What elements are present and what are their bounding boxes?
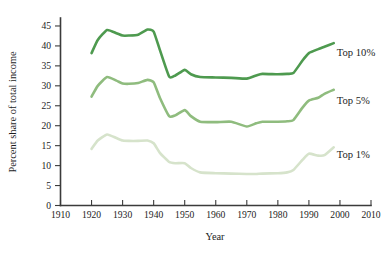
x-axis-title: Year [205, 231, 225, 242]
y-tick-label: 25 [41, 100, 51, 111]
x-tick-label: 1920 [82, 209, 101, 220]
series-label-top-5: Top 5% [337, 95, 370, 106]
y-tick-label: 40 [41, 40, 51, 51]
y-tick-marks: 051015202530354045 [41, 20, 60, 211]
series-lines [92, 30, 334, 175]
y-tick-label: 30 [41, 80, 51, 91]
series-line-top-5 [92, 77, 334, 127]
x-tick-label: 1990 [299, 209, 318, 220]
x-tick-label: 1970 [237, 209, 256, 220]
y-axis-title: Percent share of total income [7, 51, 18, 173]
x-tick-label: 1980 [268, 209, 287, 220]
y-tick-label: 15 [41, 140, 51, 151]
series-line-top-10 [92, 30, 334, 79]
x-tick-label: 1930 [113, 209, 132, 220]
y-tick-label: 10 [41, 160, 51, 171]
series-label-top-10: Top 10% [337, 47, 376, 58]
x-tick-label: 2000 [330, 209, 349, 220]
y-tick-label: 35 [41, 60, 51, 71]
y-tick-label: 5 [46, 180, 51, 191]
chart-canvas: 051015202530354045 191019201930194019501… [0, 0, 390, 256]
x-tick-label: 2010 [361, 209, 380, 220]
income-share-line-chart: 051015202530354045 191019201930194019501… [0, 0, 390, 256]
x-tick-label: 1940 [144, 209, 163, 220]
x-tick-label: 1960 [206, 209, 225, 220]
series-annotations: Top 10%Top 5%Top 1% [337, 47, 376, 160]
x-tick-marks: 1910192019301940195019601970198019902000… [51, 200, 381, 220]
y-tick-label: 45 [41, 20, 51, 31]
x-tick-label: 1910 [51, 209, 70, 220]
x-tick-label: 1950 [175, 209, 194, 220]
series-line-top-1 [92, 134, 334, 174]
y-tick-label: 20 [41, 120, 51, 131]
series-label-top-1: Top 1% [337, 149, 370, 160]
